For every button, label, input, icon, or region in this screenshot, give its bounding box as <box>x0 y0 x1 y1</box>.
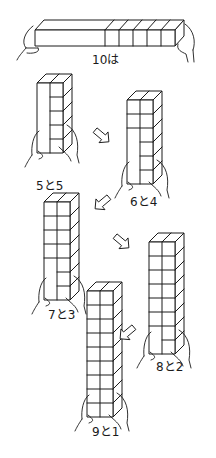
split-label: 6と4 <box>130 195 157 209</box>
col-6-4: 6と4 <box>115 91 169 209</box>
arrow-2-down-left-arrow-icon <box>91 192 114 214</box>
col-5-5: 5と5 <box>25 74 79 193</box>
split-label: 8と2 <box>156 360 183 374</box>
title-label-ten-is: 10は <box>92 53 119 67</box>
col-8-2: 8と2 <box>137 233 191 374</box>
arrow-3-down-right-arrow-icon <box>111 231 134 253</box>
split-label: 5と5 <box>36 179 63 193</box>
column-side-face <box>113 282 122 417</box>
col-9-1: 9と1 <box>75 282 129 439</box>
illustration-canvas: 10は 5と56と47と38と29と1 <box>0 0 216 458</box>
split-columns: 5と56と47と38と29と1 <box>25 74 191 439</box>
col-7-3: 7と3 <box>32 193 86 322</box>
split-label: 9と1 <box>92 425 119 439</box>
column-side-face <box>63 74 72 153</box>
split-label: 7と3 <box>48 308 75 322</box>
number-decomposition-illustration: 10は 5と56と47と38と29と1 <box>0 0 216 458</box>
arrow-1-down-right-arrow-icon <box>91 125 114 147</box>
